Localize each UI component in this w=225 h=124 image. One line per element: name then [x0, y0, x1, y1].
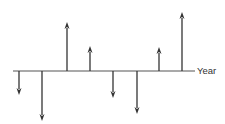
arrow-down-icon — [135, 107, 140, 114]
cash-flow-arrow-up — [65, 22, 70, 71]
arrow-up-icon — [157, 47, 162, 54]
cash-flow-diagram — [0, 0, 225, 124]
axis-label-year: Year — [197, 66, 216, 76]
cash-flow-arrows — [17, 12, 185, 121]
cash-flow-arrow-down — [40, 71, 45, 121]
arrow-down-icon — [40, 114, 45, 121]
cash-flow-arrow-up — [157, 47, 162, 71]
cash-flow-arrow-down — [135, 71, 140, 114]
arrow-up-icon — [65, 22, 70, 29]
arrow-up-icon — [180, 12, 185, 19]
arrow-down-icon — [111, 91, 116, 98]
cash-flow-arrow-down — [111, 71, 116, 98]
cash-flow-arrow-up — [88, 46, 93, 71]
cash-flow-arrow-down — [17, 71, 22, 95]
arrow-up-icon — [88, 46, 93, 53]
cash-flow-arrow-up — [180, 12, 185, 71]
arrow-down-icon — [17, 88, 22, 95]
